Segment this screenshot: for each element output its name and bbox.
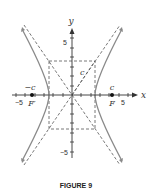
focus-right-point [110,93,114,97]
y-tick-label-5: 5 [63,39,67,46]
y-axis-arrow-icon [70,28,75,34]
neg-c-label: −c [24,83,36,92]
x-tick-label-neg5: −5 [15,99,23,106]
c-diagonal-label: c [80,68,85,77]
x-axis-label: x [141,90,146,100]
pos-c-label: c [110,83,115,92]
figure-caption: FIGURE 9 [60,182,92,189]
hyperbola-figure: y x 5 −5 −5 5 −c c c F′ F FIGURE 9 [0,0,153,195]
x-axis-arrow-icon [132,93,138,98]
c-diagonal [72,61,95,95]
x-tick-label-5: 5 [121,99,125,106]
focus-left-label: F′ [27,99,36,108]
focus-right-label: F [108,99,115,108]
focus-left-point [30,93,34,97]
y-axis-label: y [67,16,74,26]
y-tick-label-neg5: −5 [60,149,68,156]
